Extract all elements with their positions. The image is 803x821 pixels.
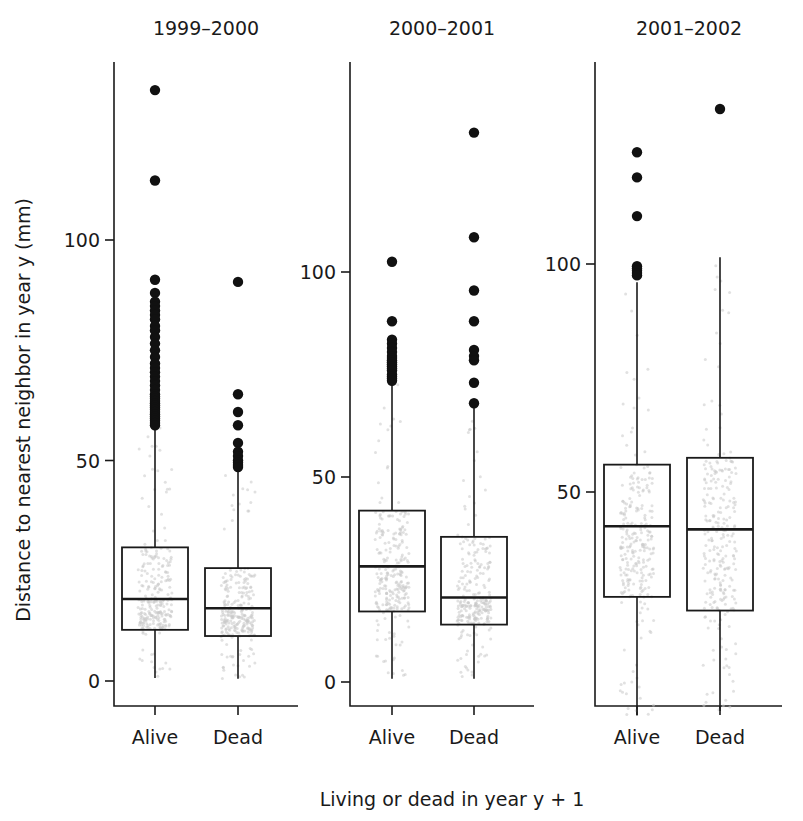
jitter-point bbox=[717, 553, 720, 556]
jitter-point bbox=[150, 660, 153, 663]
outlier-point bbox=[632, 147, 642, 157]
jitter-point bbox=[703, 463, 706, 466]
jitter-point bbox=[647, 586, 650, 589]
jitter-point bbox=[650, 537, 653, 540]
jitter-point bbox=[713, 558, 716, 561]
category-label-alive: Alive bbox=[614, 726, 661, 748]
jitter-point bbox=[647, 538, 650, 541]
jitter-point bbox=[152, 619, 155, 622]
jitter-point bbox=[722, 452, 725, 455]
jitter-point bbox=[401, 597, 404, 600]
jitter-point bbox=[223, 528, 226, 531]
jitter-point bbox=[235, 582, 238, 585]
jitter-point bbox=[468, 428, 471, 431]
jitter-point bbox=[140, 550, 143, 553]
jitter-point bbox=[620, 554, 623, 557]
jitter-point bbox=[164, 539, 167, 542]
jitter-point bbox=[706, 473, 709, 476]
jitter-point bbox=[222, 669, 225, 672]
jitter-point bbox=[168, 623, 171, 626]
jitter-point bbox=[157, 574, 160, 577]
jitter-point bbox=[713, 587, 716, 590]
jitter-point bbox=[476, 611, 479, 614]
jitter-point bbox=[459, 636, 462, 639]
jitter-point bbox=[150, 575, 153, 578]
jitter-point bbox=[704, 358, 707, 361]
jitter-point bbox=[731, 595, 734, 598]
jitter-point bbox=[633, 472, 636, 475]
jitter-point bbox=[466, 601, 469, 604]
outlier-point bbox=[150, 85, 160, 95]
jitter-point bbox=[140, 621, 143, 624]
jitter-point bbox=[629, 482, 632, 485]
jitter-point bbox=[480, 563, 483, 566]
jitter-point bbox=[140, 569, 143, 572]
jitter-point bbox=[488, 593, 491, 596]
jitter-point bbox=[167, 593, 170, 596]
jitter-point bbox=[648, 476, 651, 479]
jitter-point bbox=[476, 562, 479, 565]
panel-title: 2001–2002 bbox=[636, 17, 742, 39]
jitter-point bbox=[703, 616, 706, 619]
jitter-point bbox=[643, 549, 646, 552]
jitter-point bbox=[716, 567, 719, 570]
jitter-point bbox=[632, 565, 635, 568]
jitter-point bbox=[734, 503, 737, 506]
jitter-point bbox=[377, 481, 380, 484]
jitter-point bbox=[646, 546, 649, 549]
jitter-point bbox=[479, 475, 482, 478]
jitter-point bbox=[723, 493, 726, 496]
outlier-point bbox=[387, 316, 397, 326]
jitter-point bbox=[702, 704, 705, 707]
jitter-point bbox=[376, 588, 379, 591]
jitter-point bbox=[384, 587, 387, 590]
jitter-point bbox=[141, 607, 144, 610]
jitter-point bbox=[623, 682, 626, 685]
jitter-point bbox=[622, 403, 625, 406]
jitter-point bbox=[652, 572, 655, 575]
jitter-point bbox=[651, 568, 654, 571]
jitter-point bbox=[640, 637, 643, 640]
jitter-point bbox=[734, 642, 737, 645]
jitter-point bbox=[254, 491, 257, 494]
jitter-point bbox=[150, 555, 153, 558]
jitter-point bbox=[157, 568, 160, 571]
jitter-point bbox=[638, 686, 641, 689]
jitter-point bbox=[705, 481, 708, 484]
jitter-point bbox=[626, 522, 629, 525]
jitter-point bbox=[723, 522, 726, 525]
jitter-point bbox=[635, 510, 638, 513]
jitter-point bbox=[389, 594, 392, 597]
jitter-point bbox=[710, 474, 713, 477]
jitter-point bbox=[227, 622, 230, 625]
jitter-point bbox=[486, 562, 489, 565]
jitter-point bbox=[220, 627, 223, 630]
jitter-point bbox=[227, 610, 230, 613]
jitter-point bbox=[646, 593, 649, 596]
jitter-point bbox=[724, 479, 727, 482]
jitter-point bbox=[709, 603, 712, 606]
jitter-point bbox=[152, 615, 155, 618]
jitter-point bbox=[221, 677, 224, 680]
jitter-point bbox=[242, 659, 245, 662]
jitter-point bbox=[397, 501, 400, 504]
jitter-point bbox=[719, 564, 722, 567]
jitter-point bbox=[399, 644, 402, 647]
jitter-point bbox=[141, 604, 144, 607]
jitter-point bbox=[375, 601, 378, 604]
jitter-point bbox=[712, 659, 715, 662]
jitter-point bbox=[459, 601, 462, 604]
jitter-point bbox=[388, 637, 391, 640]
jitter-point bbox=[480, 617, 483, 620]
jitter-point bbox=[722, 557, 725, 560]
jitter-point bbox=[143, 612, 146, 615]
jitter-point bbox=[637, 491, 640, 494]
jitter-point bbox=[651, 477, 654, 480]
jitter-point bbox=[487, 579, 490, 582]
y-tick-label: 0 bbox=[88, 670, 100, 692]
jitter-point bbox=[708, 501, 711, 504]
jitter-point bbox=[468, 589, 471, 592]
jitter-point bbox=[143, 543, 146, 546]
jitter-point bbox=[466, 650, 469, 653]
jitter-point bbox=[242, 624, 245, 627]
